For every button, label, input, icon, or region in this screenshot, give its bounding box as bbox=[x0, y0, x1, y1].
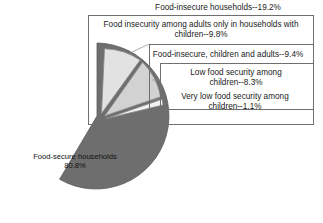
pie-chart-figure: Food-insecure households--19.2% Food ins… bbox=[0, 0, 323, 223]
label-low-food-security-children: Low food security among children--8.3% bbox=[166, 68, 306, 89]
label-food-secure-households: Food-secure households 80.8% bbox=[18, 152, 132, 171]
label-very-low-food-security-children: Very low food security among children--1… bbox=[160, 92, 310, 113]
label-children-and-adults: Food-insecure, children and adults--9.4% bbox=[140, 50, 316, 60]
label-adults-only-with-children: Food insecurity among adults only in hou… bbox=[92, 20, 310, 41]
label-food-insecure-households: Food-insecure households--19.2% bbox=[120, 3, 316, 13]
